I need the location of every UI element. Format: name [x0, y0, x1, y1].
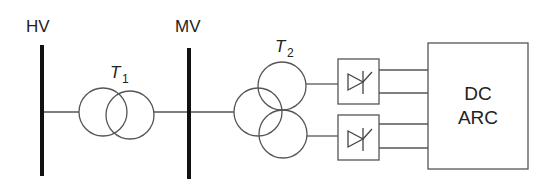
diagram-canvas: HV T 1 MV T 2	[0, 0, 556, 184]
dc-arc-box	[428, 43, 528, 169]
dc-arc-label-line1: DC	[464, 83, 491, 104]
t2-secondary-winding-top-icon	[258, 62, 306, 110]
rectifier-bottom	[338, 115, 379, 160]
t2-label: T	[275, 37, 287, 56]
dc-links	[379, 70, 428, 148]
dc-arc-furnace: DC ARC	[428, 43, 528, 169]
transformer-t2: T 2	[234, 37, 307, 158]
t1-secondary-winding-icon	[106, 91, 154, 139]
dc-arc-label-line2: ARC	[458, 107, 498, 128]
t1-label: T	[110, 63, 122, 82]
rectifier-bottom-box	[338, 115, 379, 160]
rectifier-top	[338, 59, 379, 104]
hv-busbar	[40, 45, 44, 176]
t1-primary-winding-icon	[79, 88, 127, 136]
mv-bus: MV	[175, 17, 201, 179]
t2-subscript: 2	[287, 46, 294, 60]
hv-bus: HV	[26, 17, 50, 176]
mv-busbar	[187, 48, 191, 179]
rectifier-top-box	[338, 59, 379, 104]
transformer-t1: T 1	[79, 63, 154, 139]
t1-subscript: 1	[122, 72, 129, 86]
hv-bus-label: HV	[26, 17, 50, 36]
mv-bus-label: MV	[175, 17, 201, 36]
